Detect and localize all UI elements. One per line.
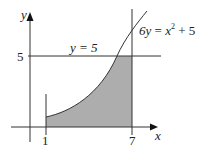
curve-label-lhs: 6y [139, 23, 152, 38]
curve-label-eq: = [151, 23, 165, 38]
diagram: y x 5 1 7 y = 5 6y = x2 + 5 [0, 0, 207, 151]
curve-label: 6y = x2 + 5 [139, 22, 195, 38]
curve-label-rest: + 5 [175, 23, 195, 38]
x-tick-1: 1 [42, 133, 49, 148]
line-y-5-label: y = 5 [68, 40, 98, 55]
x-axis-label: x [154, 128, 161, 143]
y-tick-5: 5 [17, 49, 24, 64]
x-tick-7: 7 [129, 133, 136, 148]
y-axis-arrow-icon [27, 12, 34, 21]
y-axis-label: y [19, 7, 27, 22]
shaded-region [46, 56, 132, 127]
